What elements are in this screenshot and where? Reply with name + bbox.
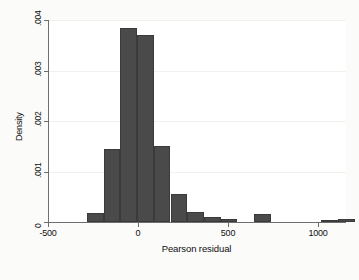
y-axis-tick-label: .004 [33,11,43,26]
histogram-bar [137,35,154,222]
x-axis-tick [228,223,229,227]
histogram-bar [154,146,171,222]
x-axis-tick-label: 0 [113,228,163,238]
histogram-bar [187,212,204,222]
x-axis-tick-label: -500 [23,228,73,238]
histogram-bar [87,213,104,222]
histogram-bar [321,220,338,222]
x-axis-tick-label: 500 [203,228,253,238]
x-axis-tick [138,223,139,227]
histogram-bar [120,28,137,222]
y-axis-tick [44,121,48,122]
y-axis-tick-label: .003 [33,61,43,76]
gridline [49,20,346,21]
x-axis-tick [318,223,319,227]
y-axis-tick [44,20,48,21]
histogram-bar [254,214,271,222]
gridline [49,71,346,72]
histogram-bar [221,219,238,222]
histogram-bar [338,219,355,222]
plot-area [48,20,346,223]
x-axis-title: Pearson residual [48,243,345,254]
y-axis-tick-label: .002 [33,112,43,127]
histogram-figure: Density Pearson residual 0.001.002.003.0… [0,0,359,280]
x-axis-tick-label: 1000 [293,228,343,238]
y-axis-tick [44,71,48,72]
histogram-bar [104,149,121,222]
x-axis-tick [48,223,49,227]
y-axis-tick [44,172,48,173]
histogram-bar [171,194,188,222]
gridline [49,172,346,173]
gridline [49,121,346,122]
y-axis-tick-label: .001 [33,162,43,177]
histogram-bar [204,217,221,222]
y-axis-title: Density [14,112,24,141]
